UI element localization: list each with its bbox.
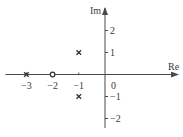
- y-tick-label: −2: [110, 113, 121, 124]
- origin-label: 0: [111, 80, 116, 91]
- zero-marker: [50, 72, 55, 77]
- real-axis-label: Re: [168, 61, 180, 72]
- x-tick-label: −2: [47, 80, 58, 91]
- imaginary-axis-label: Im: [90, 5, 101, 16]
- x-tick-label: −1: [73, 80, 84, 91]
- y-tick-label: 1: [110, 47, 115, 58]
- y-tick-label: −1: [110, 91, 121, 102]
- x-tick-label: −3: [21, 80, 32, 91]
- pole-zero-plot: Re Im 0 −3−2−121−1−2: [0, 0, 183, 137]
- y-tick-label: 2: [110, 25, 115, 36]
- pole-marker: [77, 94, 82, 99]
- pole-marker: [77, 50, 82, 55]
